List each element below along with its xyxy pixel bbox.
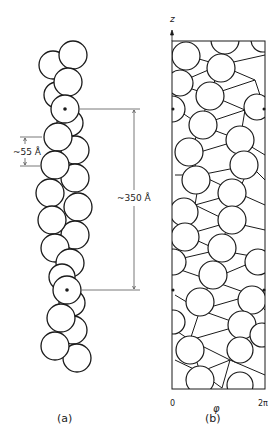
net-subunit [199, 261, 227, 289]
net-subunit [245, 249, 270, 275]
subunit [41, 332, 69, 360]
phi-min-label: 0 [170, 399, 175, 408]
net-subunit [175, 138, 203, 166]
net-subunit [227, 337, 253, 363]
dimension-350-label: ~350 Å [117, 192, 152, 203]
net-subunit [251, 28, 270, 52]
subunit [54, 68, 82, 96]
net-subunit [182, 166, 210, 194]
net-subunit [226, 126, 254, 154]
net-subunit [170, 198, 198, 226]
panel-a-chain [36, 41, 92, 372]
net-subunit [207, 54, 235, 82]
net-subunit [230, 151, 258, 179]
subunit [47, 304, 75, 332]
net-subunit [244, 94, 270, 120]
phi-max-label: 2π [258, 399, 268, 408]
net-subunit [218, 179, 246, 207]
panel-b-net [159, 26, 270, 398]
net-subunit [238, 286, 266, 314]
figure: ~55 Å ~350 Å [0, 0, 270, 434]
net-subunit [161, 310, 185, 334]
subunit [59, 41, 87, 69]
net-subunit [250, 323, 270, 347]
net-subunit [196, 82, 224, 110]
subunit [41, 151, 69, 179]
subunit [36, 179, 64, 207]
net-subunit [172, 42, 200, 70]
marker-dot [65, 288, 69, 292]
net-subunit [186, 366, 214, 394]
net-subunit [167, 70, 193, 96]
marker-dot [63, 107, 67, 111]
z-axis-arrow [171, 30, 174, 41]
net-subunit [227, 372, 253, 398]
caption-b: (b) [205, 412, 221, 425]
net-subunit [218, 206, 246, 234]
subunit [44, 123, 72, 151]
net-subunit [208, 234, 236, 262]
net-subunit [160, 249, 186, 275]
subunit [64, 193, 92, 221]
z-axis-label: z [169, 14, 175, 24]
net-subunit [186, 288, 214, 316]
subunit [38, 206, 66, 234]
net-subunit [189, 111, 217, 139]
net-subunit [211, 26, 239, 54]
net-subunit [176, 336, 204, 364]
net-subunit [171, 223, 199, 251]
caption-a: (a) [57, 412, 72, 425]
dimension-55-label: ~55 Å [13, 146, 42, 157]
